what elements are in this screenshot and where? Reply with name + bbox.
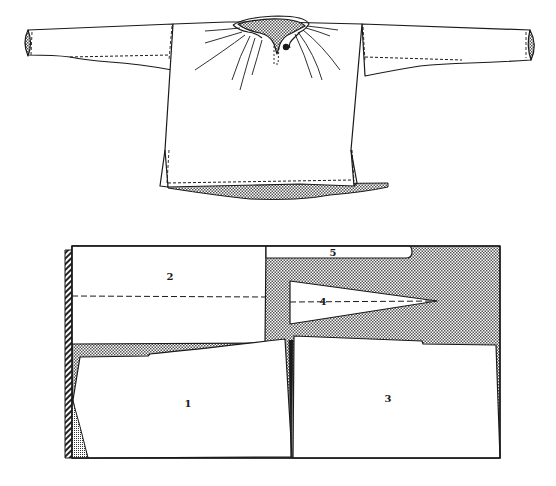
neck-button [283, 44, 288, 49]
piece-label-2: 2 [167, 271, 174, 282]
figure-canvas: 2 5 4 1 3 [0, 0, 556, 486]
figure-svg: 2 5 4 1 3 [0, 0, 556, 486]
shirt-body [165, 22, 362, 187]
shirt-illustration [25, 16, 534, 200]
left-cuff [25, 30, 31, 56]
fold-edge [65, 250, 72, 458]
piece-label-3: 3 [385, 393, 392, 404]
pattern-piece-3 [293, 336, 500, 458]
right-cuff [528, 30, 534, 60]
right-sleeve [362, 24, 531, 76]
pattern-piece-2 [72, 246, 266, 344]
pattern-piece-5 [266, 246, 412, 258]
left-sleeve [28, 24, 173, 70]
cutting-layout: 2 5 4 1 3 [65, 246, 500, 458]
piece-label-5: 5 [330, 247, 337, 258]
pattern-piece-1 [73, 339, 292, 458]
piece-label-1: 1 [185, 398, 192, 409]
piece-label-4: 4 [320, 296, 327, 307]
